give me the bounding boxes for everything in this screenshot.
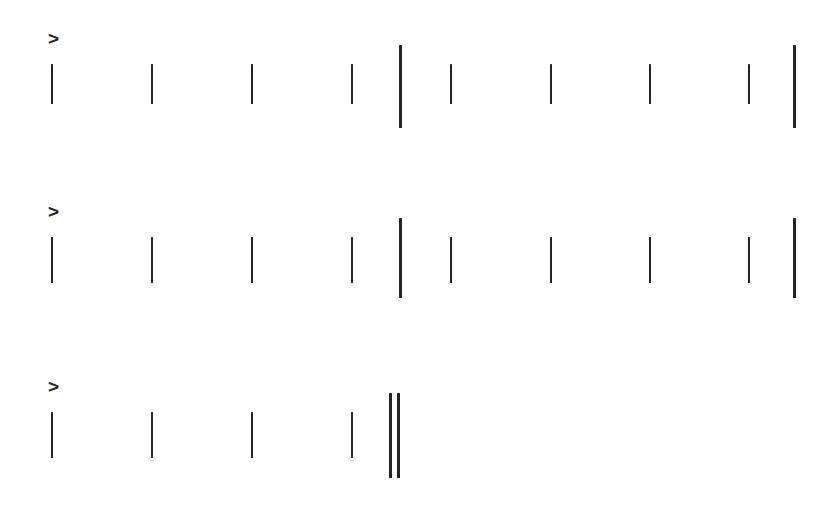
glyph-row: >	[0, 0, 839, 511]
render-canvas: >>>	[0, 0, 839, 511]
prompt-marker-icon: >	[48, 377, 59, 396]
tick-mark	[351, 412, 353, 458]
tick-mark	[251, 412, 253, 458]
rule-pair-mark	[397, 393, 400, 478]
tick-mark	[51, 412, 53, 458]
tick-mark	[151, 412, 153, 458]
rule-pair-mark	[389, 393, 392, 478]
